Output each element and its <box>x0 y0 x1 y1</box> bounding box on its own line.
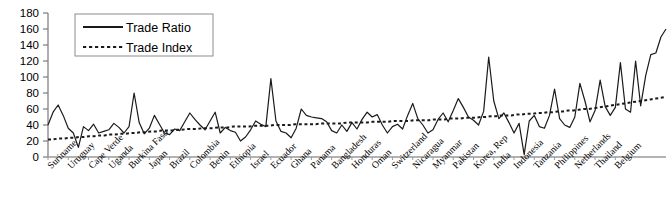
y-axis-tick-label: 120 <box>20 55 39 67</box>
x-axis <box>48 157 666 160</box>
y-axis-tick-label: 0 <box>33 151 39 163</box>
y-axis-tick-label: 60 <box>26 103 39 115</box>
y-axis-tick-label: 140 <box>20 39 39 51</box>
y-axis: 020406080100120140160180 <box>20 7 48 163</box>
y-axis-tick-label: 100 <box>20 71 39 83</box>
y-axis-tick-label: 180 <box>20 7 39 19</box>
legend-label-2: Trade Index <box>126 41 193 55</box>
y-axis-tick-label: 80 <box>26 87 39 99</box>
series-line-2 <box>48 97 666 139</box>
y-axis-tick-label: 40 <box>26 119 39 131</box>
trade-ratio-chart: 020406080100120140160180 Trade RatioTrad… <box>0 0 670 220</box>
legend-label-1: Trade Ratio <box>126 21 191 35</box>
chart-plot-area: 020406080100120140160180 Trade RatioTrad… <box>0 0 670 220</box>
chart-legend: Trade RatioTrade Index <box>75 14 213 56</box>
y-axis-tick-label: 20 <box>26 135 39 147</box>
y-axis-tick-label: 160 <box>20 23 39 35</box>
